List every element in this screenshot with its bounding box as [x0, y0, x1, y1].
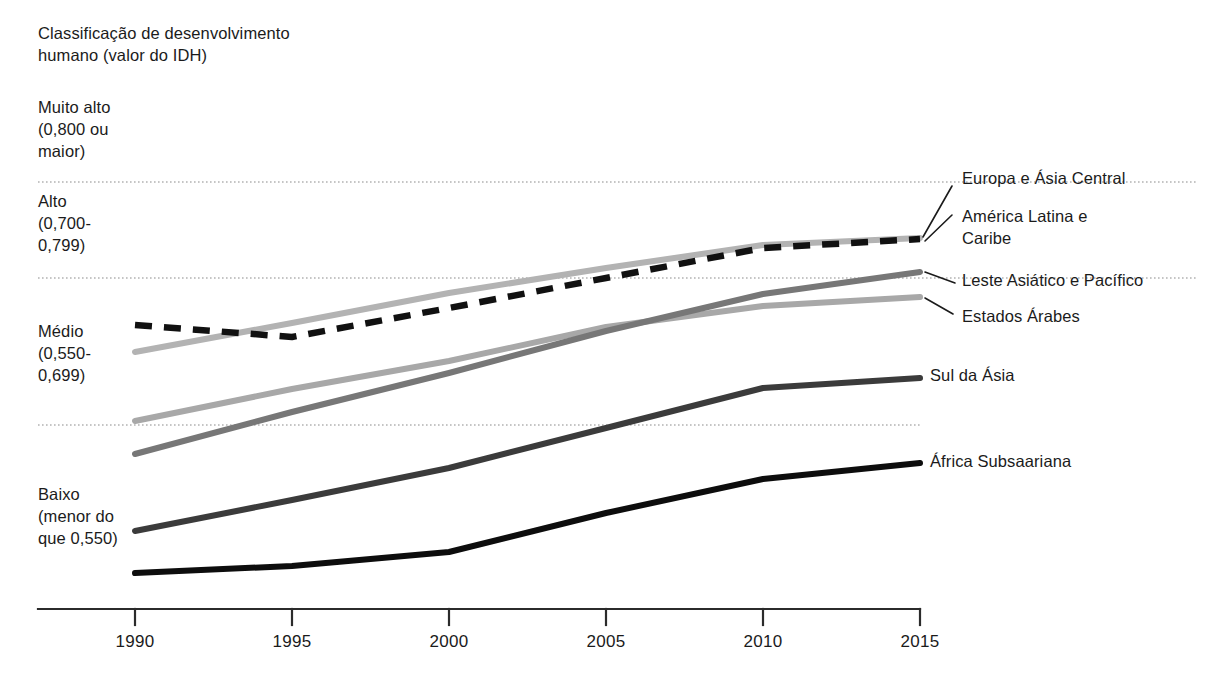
- x-tick-label-2010: 2010: [728, 632, 798, 652]
- x-axis: [38, 609, 920, 625]
- x-tick-label-2015: 2015: [885, 632, 955, 652]
- series-line-estados-arabes: [135, 297, 920, 421]
- x-tick-label-2005: 2005: [571, 632, 641, 652]
- series-line-leste-asiatico-pacifico: [135, 272, 920, 454]
- series-label-america-latina-caribe-line2: Caribe: [962, 227, 1011, 249]
- leader-arabes: [925, 298, 953, 314]
- x-tick-label-2000: 2000: [414, 632, 484, 652]
- series-line-sul-da-asia: [135, 378, 920, 531]
- series-label-america-latina-caribe-line1: América Latina e: [962, 205, 1087, 227]
- x-tick-label-1990: 1990: [100, 632, 170, 652]
- series-label-europa-asia-central: Europa e Ásia Central: [962, 167, 1126, 189]
- leader-america: [925, 215, 952, 241]
- series-label-africa-subsaariana: África Subsaariana: [930, 450, 1071, 472]
- series-line-africa-subsaariana: [135, 463, 920, 573]
- x-tick-label-1995: 1995: [257, 632, 327, 652]
- series-label-sul-da-asia: Sul da Ásia: [930, 364, 1015, 386]
- series-label-leste-asiatico-pacifico: Leste Asiático e Pacífico: [962, 269, 1143, 291]
- label-leader-lines: [923, 186, 955, 314]
- chart-plot-area: [0, 0, 1208, 690]
- hdi-trend-figure: Classificação de desenvolvimento humano …: [0, 0, 1208, 690]
- series-label-estados-arabes: Estados Árabes: [962, 305, 1080, 327]
